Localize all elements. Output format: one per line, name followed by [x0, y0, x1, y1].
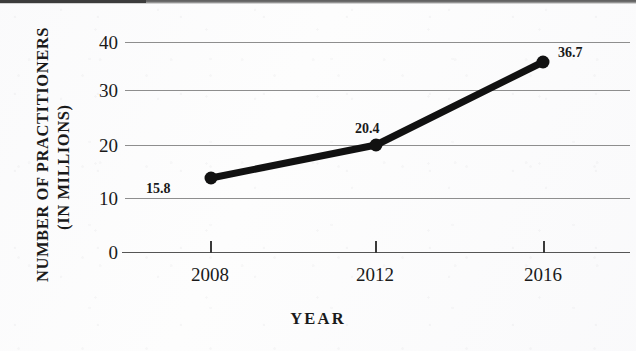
data-point-2016 — [537, 56, 550, 69]
data-label-2008: 15.8 — [146, 182, 171, 196]
data-point-2012 — [370, 139, 383, 152]
chart-page: NUMBER OF PRACTITIONERS (IN MILLIONS) YE… — [0, 0, 636, 351]
data-point-2008 — [205, 172, 218, 185]
data-label-2012: 20.4 — [355, 122, 380, 136]
data-label-2016: 36.7 — [558, 46, 583, 60]
data-series-line — [0, 0, 636, 351]
plot-area: 40 30 20 10 0 2008 2012 2016 15.8 20.4 3… — [0, 0, 636, 351]
series-polyline — [211, 62, 543, 178]
